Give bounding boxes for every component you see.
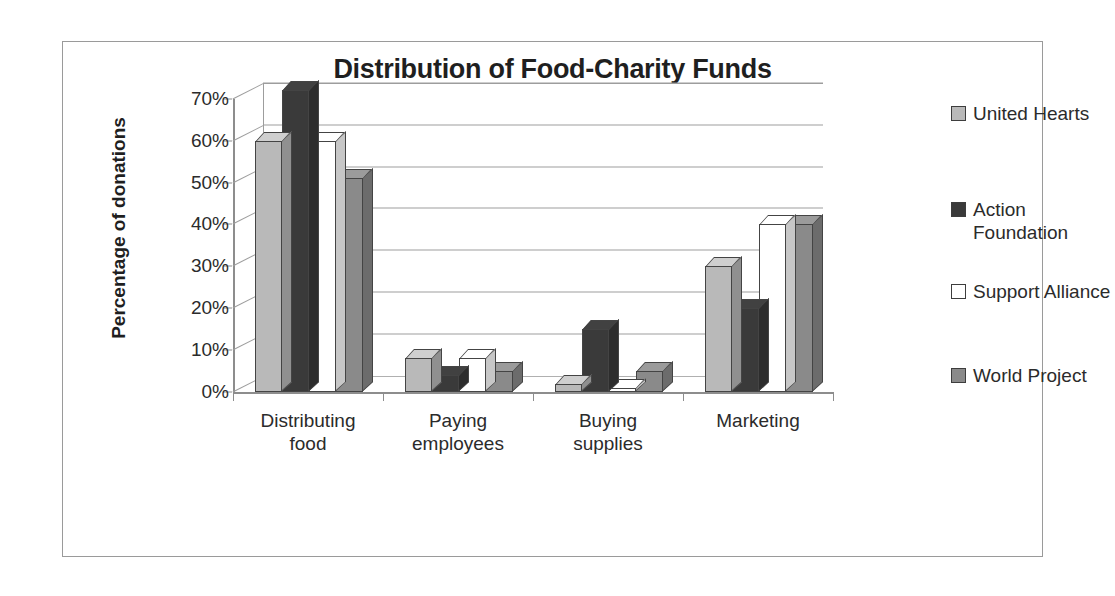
x-axis-category-label: Marketing xyxy=(673,409,843,432)
x-axis-category-label: Paying employees xyxy=(373,409,543,455)
y-axis-title: Percentage of donations xyxy=(108,98,130,358)
legend-label: World Project xyxy=(973,364,1087,387)
bar-side-face xyxy=(281,131,292,392)
gridline xyxy=(263,82,823,83)
legend-label: Action Foundation xyxy=(973,198,1068,244)
bar-side-face xyxy=(308,80,319,392)
x-axis-category-label: Distributing food xyxy=(223,409,393,455)
bar xyxy=(255,141,282,392)
bar-side-face xyxy=(785,214,796,391)
y-tick-label: 10% xyxy=(149,339,229,361)
x-tick-mark xyxy=(233,392,234,401)
x-axis-category-label: Buying supplies xyxy=(523,409,693,455)
legend-label: Support Alliance xyxy=(973,280,1110,303)
bar-front-face xyxy=(705,266,732,392)
legend-item[interactable]: World Project xyxy=(951,364,1087,387)
y-tick-label: 20% xyxy=(149,297,229,319)
y-tick-label: 70% xyxy=(149,88,229,110)
bar-front-face xyxy=(405,358,432,392)
bar-front-face xyxy=(555,384,582,392)
bar-side-face xyxy=(362,168,373,392)
x-tick-mark xyxy=(683,392,684,401)
chart-title: Distribution of Food-Charity Funds xyxy=(63,54,1042,85)
legend-label: United Hearts xyxy=(973,102,1089,125)
x-tick-mark xyxy=(833,392,834,401)
bar xyxy=(609,388,636,392)
y-tick-label: 60% xyxy=(149,130,229,152)
y-tick-label: 0% xyxy=(149,381,229,403)
bar-side-face xyxy=(608,319,619,392)
bar-front-face xyxy=(255,141,282,392)
bar-side-face xyxy=(758,298,769,392)
gridline-depth-connector xyxy=(233,83,264,99)
gridline xyxy=(263,124,823,125)
legend-item[interactable]: Support Alliance xyxy=(951,280,1110,303)
legend-swatch-icon xyxy=(951,202,966,217)
bar-side-face xyxy=(812,214,823,391)
legend-swatch-icon xyxy=(951,284,966,299)
legend-swatch-icon xyxy=(951,106,966,121)
legend-item[interactable]: Action Foundation xyxy=(951,198,1068,244)
y-tick-label: 40% xyxy=(149,213,229,235)
bar xyxy=(705,266,732,392)
bar-side-face xyxy=(731,256,742,392)
chart-frame: Distribution of Food-Charity Funds Perce… xyxy=(62,41,1043,557)
y-tick-label: 50% xyxy=(149,172,229,194)
legend-swatch-icon xyxy=(951,368,966,383)
gridline xyxy=(263,166,823,167)
bar xyxy=(405,358,432,392)
x-tick-mark xyxy=(533,392,534,401)
x-tick-mark xyxy=(383,392,384,401)
bar xyxy=(555,384,582,392)
plot-area: 0%10%20%30%40%50%60%70% Distributing foo… xyxy=(171,99,941,444)
bar-front-face xyxy=(609,388,636,392)
y-tick-label: 30% xyxy=(149,255,229,277)
legend-item[interactable]: United Hearts xyxy=(951,102,1089,125)
bar-side-face xyxy=(335,131,346,392)
